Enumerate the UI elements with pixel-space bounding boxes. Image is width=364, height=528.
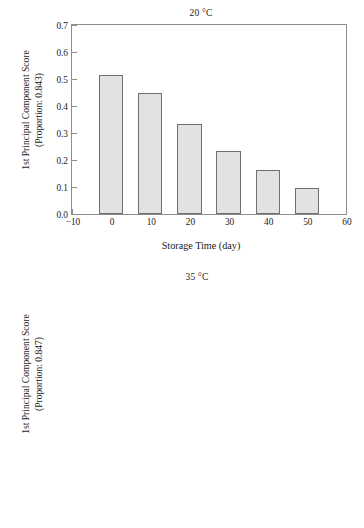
- plot-area-20c: 0.00.10.20.30.40.50.60.7−100102030405060: [71, 24, 347, 215]
- y-tick-20c-6: 0.6: [72, 52, 77, 53]
- y-tick-label-20c-6: 0.6: [56, 48, 68, 58]
- x-tick-label-20c-7: 60: [342, 217, 351, 227]
- y-tick-20c-2: 0.2: [72, 160, 77, 161]
- bar-20c-day-50: [295, 188, 319, 214]
- y-tick-20c-1: 0.1: [72, 187, 77, 188]
- chart-panel-35c: 35 °C 1st Principal Component Score (Pro…: [0, 264, 364, 528]
- y-axis-label-line1-20c: 1st Principal Component Score: [20, 22, 33, 198]
- x-tick-label-20c-4: 30: [225, 217, 234, 227]
- bar-20c-day-20: [177, 124, 201, 214]
- x-tick-20c-0: −10: [72, 209, 73, 214]
- y-tick-label-20c-3: 0.3: [56, 129, 68, 139]
- x-tick-20c-7: 60: [346, 209, 347, 214]
- bar-20c-day-40: [256, 170, 280, 214]
- y-tick-20c-0: 0.0: [72, 214, 77, 215]
- bar-20c-day-0: [99, 75, 123, 214]
- figure-two-panel-bar-charts: 20 °C 1st Principal Component Score (Pro…: [0, 0, 364, 528]
- chart-panel-20c: 20 °C 1st Principal Component Score (Pro…: [0, 0, 364, 264]
- y-tick-label-20c-5: 0.5: [56, 75, 68, 85]
- y-axis-label-line2-35c: (Proportion: 0.847): [33, 284, 46, 464]
- bar-20c-day-10: [138, 93, 162, 215]
- x-tick-label-20c-5: 40: [264, 217, 273, 227]
- y-tick-label-20c-1: 0.1: [56, 183, 68, 193]
- y-tick-20c-7: 0.7: [72, 25, 77, 26]
- y-axis-label-wrap-35c: 1st Principal Component Score (Proportio…: [4, 264, 38, 528]
- x-tick-label-20c-2: 10: [147, 217, 156, 227]
- y-axis-label-20c: 1st Principal Component Score (Proportio…: [20, 22, 45, 198]
- y-tick-label-20c-4: 0.4: [56, 102, 68, 112]
- y-axis-label-wrap-20c: 1st Principal Component Score (Proportio…: [4, 0, 38, 264]
- y-axis-label-35c: 1st Principal Component Score (Proportio…: [20, 284, 45, 464]
- x-tick-label-20c-0: −10: [66, 217, 81, 227]
- y-axis-label-line1-35c: 1st Principal Component Score: [20, 284, 33, 464]
- bar-20c-day-30: [216, 151, 240, 214]
- chart-title-35c: 35 °C: [0, 272, 364, 282]
- x-axis-label-20c: Storage Time (day): [0, 240, 364, 251]
- y-tick-20c-3: 0.3: [72, 133, 77, 134]
- y-axis-label-line2-20c: (Proportion: 0.843): [33, 22, 46, 198]
- x-tick-label-20c-1: 0: [110, 217, 115, 227]
- chart-title-20c: 20 °C: [0, 8, 364, 18]
- x-tick-label-20c-6: 50: [303, 217, 312, 227]
- y-tick-20c-5: 0.5: [72, 79, 77, 80]
- y-tick-20c-4: 0.4: [72, 106, 77, 107]
- y-tick-label-20c-7: 0.7: [56, 21, 68, 31]
- y-tick-label-20c-2: 0.2: [56, 156, 68, 166]
- x-tick-label-20c-3: 20: [186, 217, 195, 227]
